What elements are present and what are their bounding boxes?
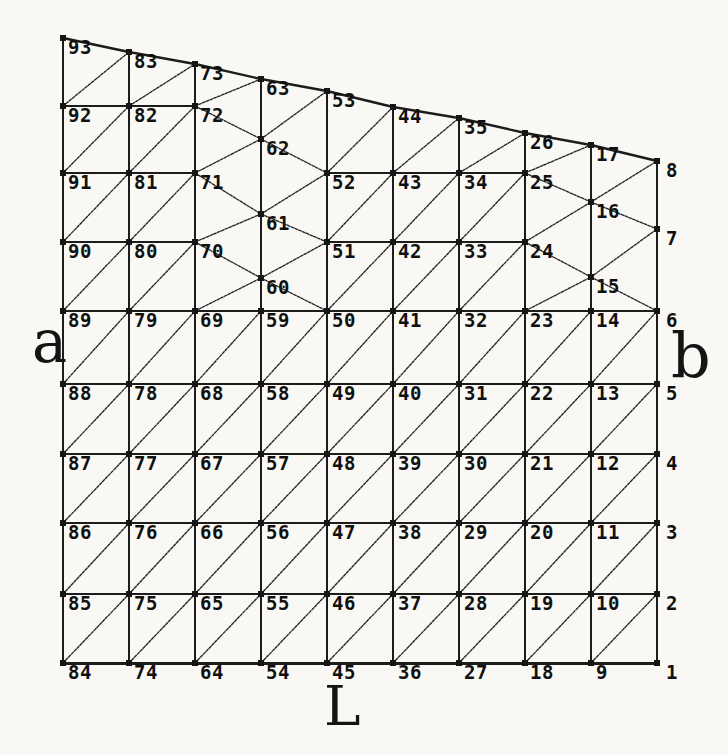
mesh-node-dot [258,451,264,457]
node-number-label: 18 [530,661,554,683]
mesh-node-dot [258,275,264,281]
mesh-node-dot [588,591,594,597]
mesh-node-dot [192,520,198,526]
mesh-node-dot [126,308,132,314]
node-number-label: 63 [266,77,290,99]
mesh-node-dot [588,451,594,457]
mesh-node-dot [654,451,660,457]
mesh-node-dot [522,591,528,597]
mesh-node-dot [456,520,462,526]
node-number-label: 67 [200,452,224,474]
mesh-node-dot [60,451,66,457]
mesh-node-dot [258,660,264,666]
node-number-label: 88 [68,382,92,404]
node-number-label: 89 [68,309,92,331]
node-number-label: 20 [530,521,554,543]
node-number-label: 46 [332,592,356,614]
mesh-node-dot [390,451,396,457]
mesh-node-dot [192,61,198,67]
mesh-node-dot [126,239,132,245]
node-number-label: 48 [332,452,356,474]
mesh-node-dot [654,520,660,526]
node-number-label: 39 [398,452,422,474]
node-number-label: 24 [530,240,554,262]
node-number-label: 74 [134,661,158,683]
node-number-label: 40 [398,382,422,404]
node-number-label: 29 [464,521,488,543]
mesh-node-dot [324,591,330,597]
mesh-node-dot [456,591,462,597]
scanned-figure-page: 1234567891011121314151617181920212223242… [0,0,728,755]
mesh-node-dot [522,170,528,176]
node-number-label: 15 [596,275,620,297]
node-number-label: 53 [332,89,356,111]
mesh-node-dot [126,103,132,109]
mesh-node-dot [522,520,528,526]
mesh-node-dot [126,49,132,55]
mesh-node-dot [390,239,396,245]
mesh-node-dot [258,211,264,217]
mesh-node-dot [192,381,198,387]
node-number-label: 61 [266,212,290,234]
mesh-node-dot [126,660,132,666]
node-number-label: 38 [398,521,422,543]
fem-mesh-figure: 1234567891011121314151617181920212223242… [0,0,728,755]
mesh-node-dot [390,308,396,314]
node-number-label: 92 [68,104,92,126]
mesh-node-dot [192,103,198,109]
mesh-node-dot [192,660,198,666]
mesh-node-dot [522,451,528,457]
node-number-label: 58 [266,382,290,404]
mesh-node-dot [390,591,396,597]
mesh-node-dot [522,130,528,136]
node-number-label: 2 [666,592,678,614]
mesh-node-dot [192,591,198,597]
mesh-node-dot [126,381,132,387]
mesh-node-dot [324,660,330,666]
mesh-node-dot [60,520,66,526]
mesh-node-dot [126,170,132,176]
mesh-node-dot [654,158,660,164]
node-number-label: 47 [332,521,356,543]
node-number-label: 90 [68,240,92,262]
node-number-label: 49 [332,382,356,404]
node-number-label: 16 [596,200,620,222]
node-number-label: 25 [530,171,554,193]
mesh-node-dot [456,115,462,121]
mesh-node-dot [60,591,66,597]
node-number-label: 65 [200,592,224,614]
node-number-label: 23 [530,309,554,331]
mesh-node-dot [258,76,264,82]
mesh-node-dot [390,170,396,176]
node-number-label: 21 [530,452,554,474]
mesh-node-dot [60,35,66,41]
mesh-node-dot [192,239,198,245]
mesh-node-dot [258,308,264,314]
node-number-label: 36 [398,661,422,683]
mesh-node-dot [654,308,660,314]
node-number-label: 72 [200,104,224,126]
node-number-label: 56 [266,521,290,543]
mesh-node-dot [126,591,132,597]
mesh-node-dot [654,381,660,387]
node-number-label: 66 [200,521,224,543]
mesh-node-dot [324,520,330,526]
mesh-node-dot [456,308,462,314]
mesh-node-dot [60,660,66,666]
node-number-label: 33 [464,240,488,262]
node-number-label: 43 [398,171,422,193]
node-number-label: 82 [134,104,158,126]
mesh-node-dot [258,520,264,526]
node-number-label: 60 [266,276,290,298]
bottom-edge-label-L: L [324,674,361,738]
mesh-node-dot [588,381,594,387]
node-number-label: 35 [464,116,488,138]
mesh-node-dot [192,308,198,314]
mesh-node-dot [324,308,330,314]
mesh-node-dot [522,239,528,245]
mesh-node-dot [522,308,528,314]
node-number-label: 17 [596,143,620,165]
node-number-label: 79 [134,309,158,331]
mesh-node-dot [192,451,198,457]
node-number-label: 26 [530,131,554,153]
